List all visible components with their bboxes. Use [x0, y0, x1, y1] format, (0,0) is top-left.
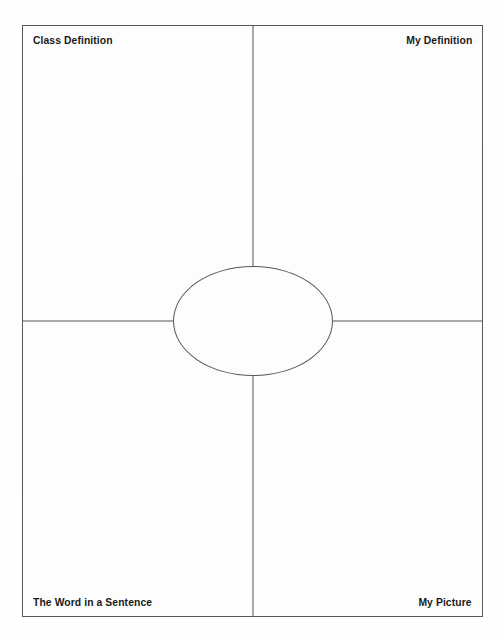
quadrant-label-my-definition: My Definition: [406, 34, 472, 46]
quadrant-label-my-picture: My Picture: [419, 596, 472, 608]
frayer-model-organizer: Class Definition My Definition The Word …: [22, 25, 483, 617]
worksheet-page: Class Definition My Definition The Word …: [0, 0, 504, 640]
quadrant-label-word-in-a-sentence: The Word in a Sentence: [33, 596, 152, 608]
center-word-ellipse[interactable]: [173, 266, 333, 376]
quadrant-label-class-definition: Class Definition: [33, 34, 113, 46]
